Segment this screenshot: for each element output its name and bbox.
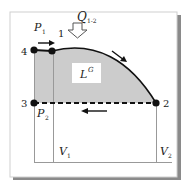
work-label: L [79, 68, 87, 81]
v1-sub: 1 [67, 152, 71, 159]
p1-sub: 1 [42, 28, 46, 35]
v2-sub: 2 [168, 152, 172, 159]
p1-label: P [33, 21, 42, 34]
point-label-3: 3 [21, 98, 27, 109]
p2-sub: 2 [45, 114, 49, 121]
heat-sub: 1-2 [87, 17, 97, 24]
point-label-1: 1 [58, 28, 64, 39]
heat-label: Q [77, 10, 87, 24]
p2-label: P [36, 107, 45, 120]
point-4 [30, 46, 37, 53]
work-sup: G [88, 66, 94, 74]
pv-diagram: 4 1 3 2 P 1 P 2 V 1 V 2 Q 1-2 L G [0, 0, 195, 182]
point-label-4: 4 [21, 46, 27, 57]
point-3 [30, 99, 37, 106]
point-2 [152, 99, 159, 106]
point-label-2: 2 [163, 98, 169, 109]
point-1 [48, 47, 55, 54]
